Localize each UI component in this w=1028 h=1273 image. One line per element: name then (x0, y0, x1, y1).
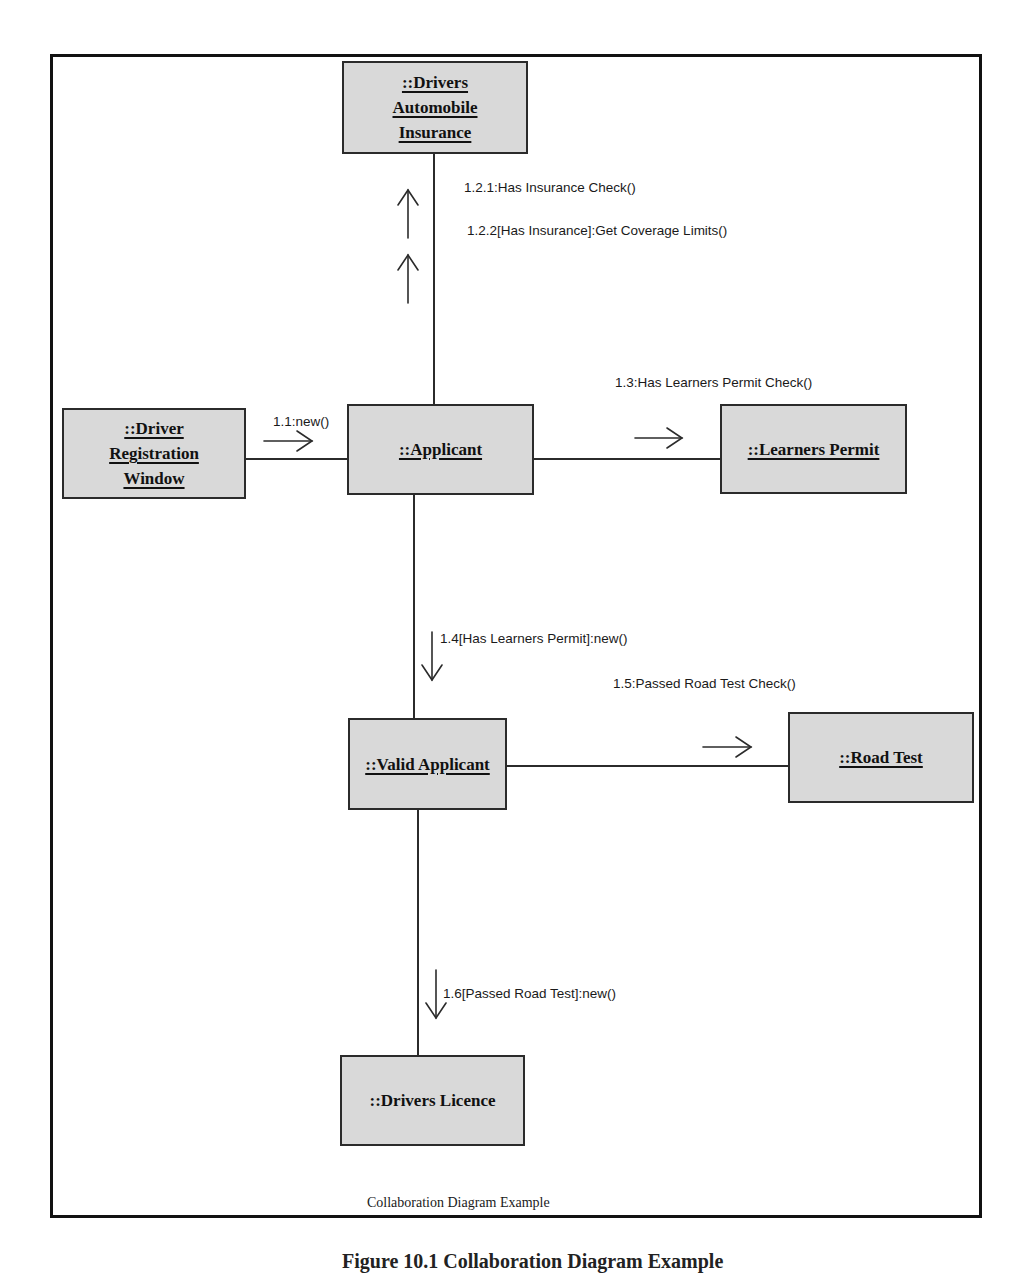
object-label: ::Valid Applicant (365, 752, 490, 777)
arrow-right-icon (703, 737, 751, 757)
object-applicant[interactable]: ::Applicant (347, 404, 534, 495)
message-1-3: 1.3:Has Learners Permit Check() (615, 375, 812, 390)
arrow-right-icon (635, 428, 682, 448)
arrow-up-icon (398, 255, 418, 303)
object-drivers-licence[interactable]: ::Drivers Licence (340, 1055, 525, 1146)
message-1-4: 1.4[Has Learners Permit]:new() (440, 631, 628, 646)
object-label: ::Driver Registration Window (109, 416, 199, 491)
diagram-caption: Collaboration Diagram Example (367, 1195, 550, 1211)
message-1-6: 1.6[Passed Road Test]:new() (443, 986, 616, 1001)
object-label: ::Drivers Automobile Insurance (393, 70, 478, 145)
object-road-test[interactable]: ::Road Test (788, 712, 974, 803)
object-learners-permit[interactable]: ::Learners Permit (720, 404, 907, 494)
object-driver-registration-window[interactable]: ::Driver Registration Window (62, 408, 246, 499)
object-drivers-automobile-insurance[interactable]: ::Drivers Automobile Insurance (342, 61, 528, 154)
object-valid-applicant[interactable]: ::Valid Applicant (348, 718, 507, 810)
object-label: ::Drivers Licence (369, 1088, 495, 1113)
object-label: ::Learners Permit (748, 437, 880, 462)
arrow-up-icon (398, 190, 418, 238)
arrow-right-icon (264, 431, 312, 451)
message-1-2-2: 1.2.2[Has Insurance]:Get Coverage Limits… (467, 223, 727, 238)
object-label: ::Road Test (839, 745, 923, 770)
message-1-1: 1.1:new() (273, 414, 329, 429)
message-1-2-1: 1.2.1:Has Insurance Check() (464, 180, 636, 195)
arrow-down-icon (422, 632, 442, 680)
object-label: ::Applicant (399, 437, 482, 462)
figure-caption: Figure 10.1 Collaboration Diagram Exampl… (342, 1250, 723, 1273)
message-1-5: 1.5:Passed Road Test Check() (613, 676, 796, 691)
